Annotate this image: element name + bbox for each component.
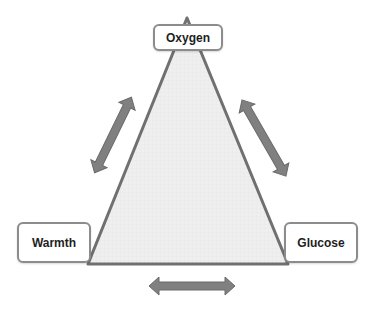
node-glucose-label: Glucose — [297, 236, 344, 250]
node-glucose: Glucose — [284, 222, 358, 263]
node-warmth-label: Warmth — [32, 236, 76, 250]
triangle-shape — [88, 18, 288, 264]
node-oxygen-label: Oxygen — [166, 31, 210, 45]
node-warmth: Warmth — [17, 222, 91, 263]
double-arrow-warmth-glucose — [149, 277, 235, 295]
node-oxygen: Oxygen — [153, 24, 223, 51]
